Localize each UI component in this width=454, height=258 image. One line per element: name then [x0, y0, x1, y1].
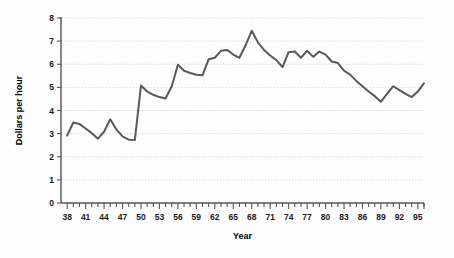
x-tick-label: 41 — [81, 212, 91, 222]
x-tick-label: 80 — [321, 212, 331, 222]
x-tick-label: 56 — [173, 212, 183, 222]
y-tick-label: 0 — [49, 198, 54, 208]
x-axis-tick-labels-group: 3841444750535659626568717477808386899295 — [62, 212, 422, 222]
x-tick-label: 92 — [395, 212, 405, 222]
x-tick-label: 50 — [136, 212, 146, 222]
y-tick-label: 4 — [49, 106, 54, 116]
y-tick-label: 6 — [49, 59, 54, 69]
line-chart: 012345678 384144475053565962656871747780… — [0, 0, 454, 258]
x-tick-label: 71 — [265, 212, 275, 222]
y-tick-label: 1 — [49, 175, 54, 185]
x-tick-label: 77 — [302, 212, 312, 222]
gridlines-group — [61, 18, 424, 180]
x-axis-ticks-group — [67, 203, 424, 209]
x-tick-label: 59 — [192, 212, 202, 222]
y-tick-label: 2 — [49, 152, 54, 162]
y-axis-title: Dollars per hour — [14, 75, 24, 145]
x-tick-label: 53 — [155, 212, 165, 222]
x-tick-label: 89 — [376, 212, 386, 222]
data-series-line — [67, 31, 424, 140]
x-tick-label: 83 — [339, 212, 349, 222]
y-axis-tick-labels-group: 012345678 — [49, 13, 54, 208]
y-tick-label: 5 — [49, 82, 54, 92]
x-tick-label: 86 — [358, 212, 368, 222]
x-tick-label: 47 — [118, 212, 128, 222]
x-tick-label: 95 — [413, 212, 423, 222]
chart-figure: 012345678 384144475053565962656871747780… — [0, 0, 454, 258]
x-axis-title: Year — [233, 231, 253, 241]
x-tick-label: 65 — [229, 212, 239, 222]
x-tick-label: 38 — [62, 212, 72, 222]
y-tick-label: 7 — [49, 36, 54, 46]
y-tick-label: 8 — [49, 13, 54, 23]
x-tick-label: 68 — [247, 212, 257, 222]
y-tick-label: 3 — [49, 129, 54, 139]
x-tick-label: 44 — [99, 212, 109, 222]
x-tick-label: 74 — [284, 212, 294, 222]
x-tick-label: 62 — [210, 212, 220, 222]
